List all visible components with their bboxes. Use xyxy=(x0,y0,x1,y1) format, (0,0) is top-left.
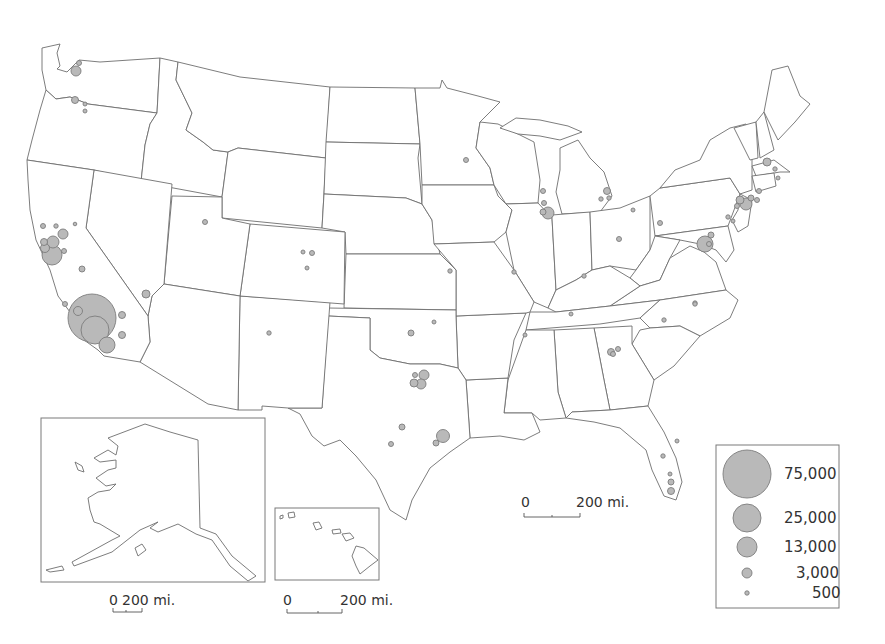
city-symbol xyxy=(631,208,635,212)
city-symbol xyxy=(735,204,740,209)
city-symbol xyxy=(71,66,81,76)
city-symbol xyxy=(604,188,611,195)
city-symbol xyxy=(77,61,82,66)
city-symbol xyxy=(736,196,744,204)
main-scale-zero: 0 xyxy=(521,494,530,510)
legend-symbol-25000 xyxy=(733,504,761,532)
city-symbol xyxy=(119,312,126,319)
city-symbol xyxy=(305,266,309,270)
city-symbol xyxy=(448,269,452,273)
city-symbol xyxy=(74,307,83,316)
city-symbol xyxy=(776,176,780,180)
state-connecticut xyxy=(752,173,776,192)
city-symbol xyxy=(661,454,665,458)
city-symbol xyxy=(83,102,87,106)
state-iowa xyxy=(422,185,512,244)
city-symbol xyxy=(542,201,547,206)
alaska-scale-zero: 0 xyxy=(109,592,118,608)
state-michigan xyxy=(556,140,612,214)
legend-symbol-13000 xyxy=(737,537,757,557)
city-symbol xyxy=(203,220,208,225)
city-symbol xyxy=(731,219,735,223)
city-symbol xyxy=(41,224,46,229)
city-symbol xyxy=(142,290,150,298)
city-symbol xyxy=(523,333,527,337)
city-symbol xyxy=(58,229,68,239)
hawaii-niihau xyxy=(280,515,283,519)
us-map: 0 200 mi. 0 200 mi. 0 200 mi. 75,000 25,… xyxy=(0,0,885,644)
legend-label-500: 500 xyxy=(812,584,841,602)
city-symbol xyxy=(99,337,115,353)
city-symbol xyxy=(512,270,516,274)
city-symbol xyxy=(79,266,85,272)
alaska-scale-line xyxy=(113,608,142,612)
main-scale-distance: 200 mi. xyxy=(576,494,629,510)
main-scale-line xyxy=(524,513,580,517)
legend-symbol-3000 xyxy=(742,568,752,578)
hawaii-kauai xyxy=(288,512,295,518)
city-symbol xyxy=(72,97,79,104)
city-symbol xyxy=(54,224,58,228)
state-colorado xyxy=(240,224,345,304)
state-north-dakota xyxy=(326,87,420,144)
state-maine xyxy=(764,66,810,140)
city-symbol xyxy=(83,109,87,113)
alaska-scale-bar: 0 200 mi. xyxy=(109,592,175,612)
legend-label-25000: 25,000 xyxy=(784,509,837,527)
city-symbol xyxy=(41,239,48,246)
city-symbol xyxy=(399,424,405,430)
main-scale-bar: 0 200 mi. xyxy=(521,494,629,517)
city-symbol xyxy=(616,347,621,352)
state-kansas xyxy=(344,254,456,310)
hawaii-molokai xyxy=(332,529,341,534)
city-symbol xyxy=(464,158,469,163)
city-symbol xyxy=(540,209,546,215)
city-symbol xyxy=(541,189,546,194)
city-symbol xyxy=(301,250,305,254)
city-symbol xyxy=(63,302,68,307)
state-florida xyxy=(566,406,682,500)
hawaii-inset xyxy=(275,508,379,580)
city-symbol xyxy=(617,237,622,242)
city-symbol xyxy=(419,370,429,380)
legend: 75,000 25,000 13,000 3,000 500 xyxy=(716,445,841,608)
hawaii-scale-zero: 0 xyxy=(283,592,292,608)
city-symbol xyxy=(413,373,418,378)
hawaii-scale-distance: 200 mi. xyxy=(340,592,393,608)
state-arizona xyxy=(140,284,240,410)
city-symbol xyxy=(757,189,762,194)
legend-label-3000: 3,000 xyxy=(796,564,839,582)
city-symbol xyxy=(748,195,754,201)
legend-symbol-500 xyxy=(745,591,749,595)
city-symbol xyxy=(599,197,603,201)
city-symbol xyxy=(433,440,439,446)
hawaii-scale-line xyxy=(287,609,342,613)
city-symbol xyxy=(755,198,760,203)
city-symbol xyxy=(668,472,672,476)
city-symbol xyxy=(582,274,586,278)
city-symbol xyxy=(708,232,714,238)
city-symbol xyxy=(267,331,271,335)
city-symbol xyxy=(62,249,67,254)
city-symbol xyxy=(310,251,315,256)
city-symbol xyxy=(607,196,611,200)
alaska-scale-distance: 200 mi. xyxy=(122,592,175,608)
legend-symbol-75000 xyxy=(723,450,771,498)
city-symbol xyxy=(763,158,771,166)
city-symbol xyxy=(693,302,697,306)
city-symbol xyxy=(773,167,777,171)
city-symbol xyxy=(668,488,675,495)
city-symbol xyxy=(408,330,414,336)
city-symbol xyxy=(662,318,666,322)
city-symbol xyxy=(611,352,616,357)
city-symbol xyxy=(726,215,730,219)
state-wyoming xyxy=(222,148,326,228)
city-symbol xyxy=(73,222,77,226)
legend-label-13000: 13,000 xyxy=(784,538,837,556)
city-symbol xyxy=(432,320,436,324)
city-symbol xyxy=(707,242,712,247)
alaska-inset xyxy=(41,418,265,582)
legend-label-75000: 75,000 xyxy=(784,465,837,483)
city-symbol xyxy=(389,442,394,447)
city-symbol xyxy=(437,430,450,443)
